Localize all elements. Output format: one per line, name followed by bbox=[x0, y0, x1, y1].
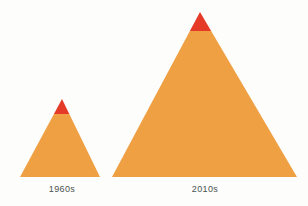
pyramid-2010s-tip bbox=[190, 12, 211, 31]
pyramid-1960s-tip bbox=[54, 99, 69, 114]
pyramid-2010s-body bbox=[112, 31, 297, 177]
pyramid-comparison-figure: 1960s 2010s bbox=[0, 0, 308, 206]
category-label-2010s: 2010s bbox=[192, 184, 219, 194]
pyramid-1960s bbox=[20, 99, 100, 177]
pyramid-chart-canvas bbox=[0, 0, 308, 206]
pyramid-1960s-body bbox=[20, 114, 100, 177]
category-label-1960s: 1960s bbox=[49, 184, 76, 194]
pyramid-2010s bbox=[112, 12, 297, 177]
